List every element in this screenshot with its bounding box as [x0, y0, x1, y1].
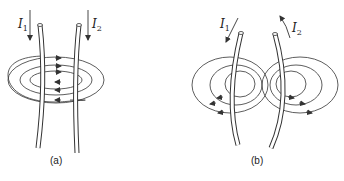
- field-arrows-a: [55, 58, 61, 100]
- field-lines-a: [8, 56, 104, 103]
- wire-1-b: [232, 32, 243, 146]
- panel-a: I1 I2 (a): [8, 10, 104, 166]
- magnetic-field-diagram: I1 I2 (a): [0, 0, 344, 181]
- field-lines-b-right: [262, 57, 338, 113]
- caption-b: (b): [251, 155, 263, 166]
- panel-b: I1 I2 (b): [192, 16, 338, 166]
- caption-a: (a): [50, 155, 62, 166]
- label-i2-b: I2: [291, 21, 302, 37]
- wire-2-b: [271, 33, 283, 149]
- current-arrow-2-b: [280, 16, 290, 38]
- wire-2-a: [76, 24, 82, 154]
- wire-1-a: [38, 24, 43, 149]
- label-i2-a: I2: [91, 17, 102, 33]
- label-i1-a: I1: [17, 17, 28, 33]
- label-i1-b: I1: [219, 17, 230, 33]
